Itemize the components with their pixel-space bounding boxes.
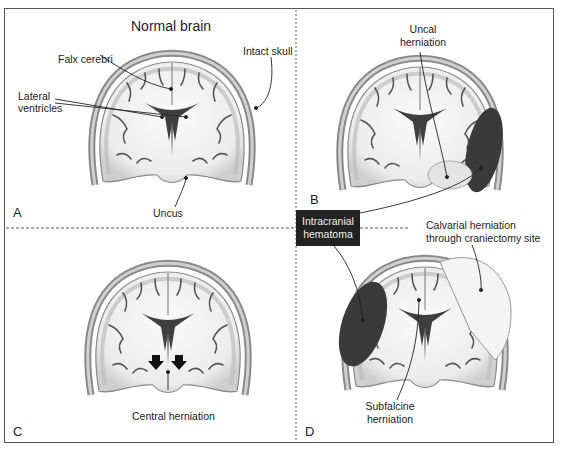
panel-letter-b: B	[310, 192, 319, 207]
panel-letter-a: A	[13, 205, 22, 220]
label-calvarial-herniation-line2: through craniectomy site	[426, 232, 540, 244]
panel-letter-c: C	[13, 424, 22, 439]
label-intracranial-hematoma: Intracranial hematoma	[296, 210, 360, 246]
brain-panel-a	[92, 53, 252, 185]
hematoma-line2: hematoma	[296, 228, 360, 241]
label-central-herniation: Central herniation	[132, 410, 215, 422]
label-subfalcine-herniation-line2: herniation	[359, 413, 421, 425]
label-uncus: Uncus	[153, 207, 183, 219]
label-lateral-ventricles-line1: Lateral	[18, 90, 50, 102]
label-subfalcine-herniation-line1: Subfalcine	[362, 400, 418, 412]
uncal-herniation-area	[428, 161, 472, 189]
brain-panel-d	[329, 258, 511, 390]
label-calvarial-herniation-line1: Calvarial herniation	[426, 219, 516, 231]
panel-letter-d: D	[305, 424, 314, 439]
hematoma-line1: Intracranial	[296, 215, 360, 228]
panel-a-title: Normal brain	[131, 18, 211, 34]
label-uncal-herniation-line1: Uncal	[395, 23, 451, 35]
label-intact-skull: Intact skull	[243, 45, 293, 57]
label-uncal-herniation-line2: herniation	[390, 36, 456, 48]
label-falx-cerebri: Falx cerebri	[58, 53, 113, 65]
label-lateral-ventricles-line2: ventricles	[18, 102, 62, 114]
